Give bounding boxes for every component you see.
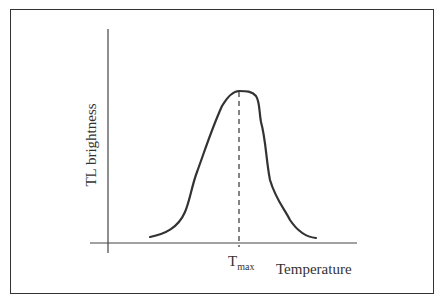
glow-curve [150, 91, 316, 238]
y-axis-label: TL brightness [83, 103, 99, 186]
x-axis-label: Temperature [276, 261, 352, 277]
tl-glow-curve-diagram: TL brightness Tmax Temperature [0, 0, 444, 304]
tmax-label: Tmax [228, 253, 254, 272]
